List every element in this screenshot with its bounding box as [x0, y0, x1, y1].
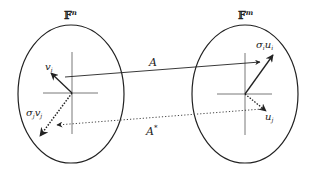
left-space-label: 𝔽n [64, 8, 77, 22]
right-space-label: 𝔽m [238, 8, 253, 22]
label-v-i: vi [45, 61, 53, 73]
right-space: 𝔽m σiui uj [192, 8, 298, 163]
vector-u-j [245, 94, 266, 111]
svd-diagram: 𝔽n vi σjvj 𝔽m σiui uj A A* [0, 0, 312, 170]
label-sigma-i-u-i: σiui [256, 39, 273, 51]
label-sigma-j-v-j: σjvj [26, 107, 42, 120]
map-a-label: A [148, 56, 157, 69]
label-u-j: uj [265, 111, 273, 124]
vector-sigma-j-v-j [40, 93, 72, 136]
vector-sigma-i-u-i [245, 55, 273, 94]
map-a-star-arrow [57, 109, 262, 125]
vector-v-i [51, 73, 72, 93]
map-a-star-label: A* [145, 124, 158, 138]
map-a-arrow [65, 62, 260, 77]
left-space: 𝔽n vi σjvj [18, 8, 124, 163]
